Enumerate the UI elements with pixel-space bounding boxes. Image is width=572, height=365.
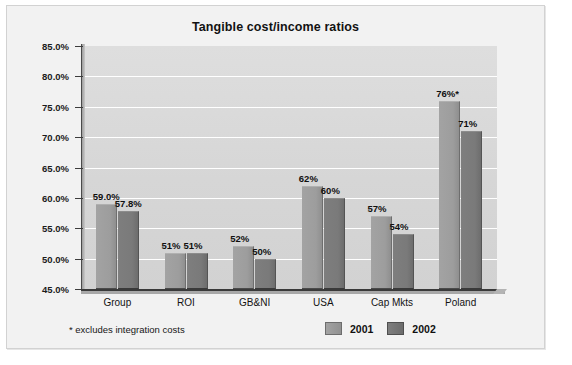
gridline <box>85 107 497 108</box>
y-axis-tick <box>75 259 83 260</box>
bar-value-label: 51% <box>184 240 203 251</box>
bar-gb-ni-2002[interactable] <box>255 259 276 289</box>
legend-swatch-2001-icon <box>325 322 342 335</box>
footnote: * excludes integration costs <box>69 324 185 335</box>
chart-title: Tangible cost/income ratios <box>7 20 544 34</box>
bar-group-2001[interactable] <box>96 204 117 289</box>
bar-roi-2001[interactable] <box>165 253 186 289</box>
y-axis-tick-label: 50.0% <box>11 253 69 264</box>
legend-swatch-2002-icon <box>387 322 404 335</box>
legend-label-2002: 2002 <box>412 323 435 335</box>
gridline <box>85 168 497 169</box>
x-axis-label-group: Group <box>103 297 131 308</box>
x-axis-line <box>81 289 505 294</box>
y-axis-tick-label: 70.0% <box>11 132 69 143</box>
y-axis-tick-label: 60.0% <box>11 192 69 203</box>
bar-gb-ni-2001[interactable] <box>233 246 254 289</box>
bar-value-label: 50% <box>252 246 271 257</box>
gridline <box>85 137 497 138</box>
y-axis-tick <box>75 76 83 77</box>
bar-value-label: 54% <box>390 221 409 232</box>
bar-poland-2002[interactable] <box>461 131 482 289</box>
y-axis-tick-label: 55.0% <box>11 223 69 234</box>
x-axis-label-usa: USA <box>313 297 334 308</box>
bar-poland-2001[interactable] <box>439 101 460 289</box>
x-axis-label-roi: ROI <box>177 297 195 308</box>
y-axis-tick <box>75 107 83 108</box>
bar-cap-mkts-2001[interactable] <box>371 216 392 289</box>
x-axis-label-gb-ni: GB&NI <box>239 297 270 308</box>
legend-item-2001[interactable]: 2001 <box>325 322 373 335</box>
bar-value-label: 51% <box>162 240 181 251</box>
legend-label-2001: 2001 <box>350 323 373 335</box>
bar-usa-2002[interactable] <box>324 198 345 289</box>
gridline <box>85 228 497 229</box>
y-axis-tick <box>75 46 83 47</box>
bar-usa-2001[interactable] <box>302 186 323 289</box>
gridline <box>85 198 497 199</box>
bar-value-label: 60% <box>321 185 340 196</box>
chart-frame: Tangible cost/income ratios 85.0%80.0%75… <box>6 5 545 349</box>
y-axis-tick-label: 80.0% <box>11 71 69 82</box>
y-axis-tick-label: 75.0% <box>11 101 69 112</box>
y-axis-tick <box>75 228 83 229</box>
y-axis-tick <box>75 168 83 169</box>
bar-roi-2002[interactable] <box>187 253 208 289</box>
chart-legend: 2001 2002 <box>325 322 436 335</box>
y-axis-tick-label: 45.0% <box>11 284 69 295</box>
bar-cap-mkts-2002[interactable] <box>393 234 414 289</box>
bar-value-label: 76%* <box>436 88 459 99</box>
x-axis-label-poland: Poland <box>445 297 476 308</box>
y-axis-tick <box>75 289 83 290</box>
gridline <box>85 259 497 260</box>
bar-value-label: 57.8% <box>115 198 142 209</box>
x-axis-label-cap-mkts: Cap Mkts <box>371 297 413 308</box>
bar-group-2002[interactable] <box>118 211 139 289</box>
bar-value-label: 62% <box>299 173 318 184</box>
bar-value-label: 71% <box>458 118 477 129</box>
y-axis-tick <box>75 137 83 138</box>
bar-value-label: 57% <box>368 203 387 214</box>
gridline <box>85 76 497 77</box>
plot-area <box>85 46 497 289</box>
bar-value-label: 52% <box>230 233 249 244</box>
legend-item-2002[interactable]: 2002 <box>387 322 435 335</box>
y-axis-tick <box>75 198 83 199</box>
y-axis-tick-label: 85.0% <box>11 41 69 52</box>
y-axis-tick-label: 65.0% <box>11 162 69 173</box>
